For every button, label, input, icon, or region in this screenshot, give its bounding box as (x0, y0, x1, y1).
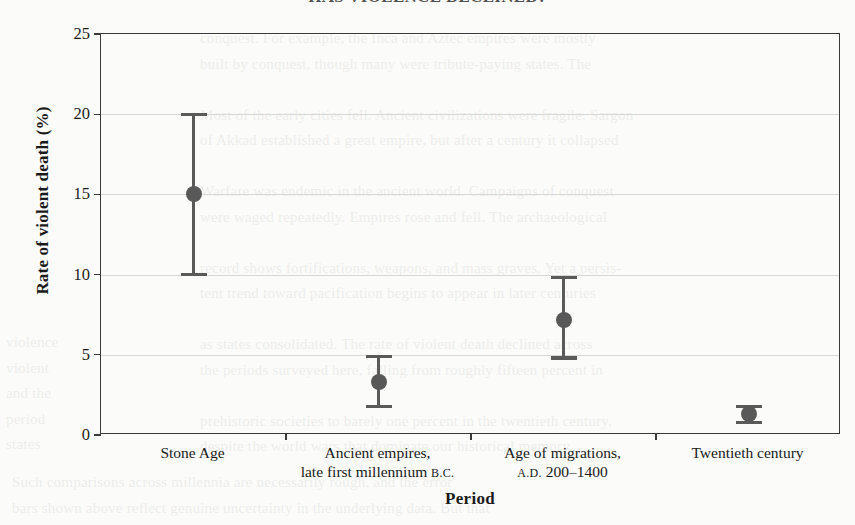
x-category-label-line: late first millennium B.C. (301, 462, 455, 483)
error-bar-cap-lower (181, 273, 207, 276)
era-marker: B.C. (431, 466, 454, 480)
y-tick-label: 25 (74, 24, 91, 44)
error-bar-cap-lower (366, 405, 392, 408)
y-tick-label: 15 (74, 184, 91, 204)
y-tick-mark (94, 33, 101, 34)
y-tick-mark (94, 194, 101, 195)
x-tick-mark (655, 433, 656, 440)
x-axis-title: Period (100, 489, 840, 509)
error-bar-cap-upper (366, 355, 392, 358)
x-category-label-line: Ancient empires, (301, 443, 455, 462)
data-point-marker (556, 312, 572, 328)
gridline (101, 275, 839, 276)
plot-area: 0510152025 (100, 33, 840, 434)
y-tick-label: 0 (82, 425, 90, 445)
x-category-label: Stone Age (160, 443, 224, 462)
era-marker: A.D. (517, 466, 542, 480)
x-category-label-line: Age of migrations, (504, 443, 621, 462)
x-category-label-line: Stone Age (160, 443, 224, 462)
y-tick-label: 10 (74, 265, 91, 285)
y-tick-mark (94, 114, 101, 115)
data-point-marker (186, 186, 202, 202)
x-tick-mark (285, 433, 286, 440)
data-point-marker (371, 374, 387, 390)
x-category-label: Age of migrations,A.D. 200–1400 (504, 443, 621, 483)
y-axis-title: Rate of violent death (%) (23, 0, 63, 401)
gridline (101, 355, 839, 356)
gridline (101, 114, 839, 115)
data-point-marker (741, 406, 757, 422)
x-category-label: Ancient empires,late first millennium B.… (301, 443, 455, 483)
y-tick-label: 20 (74, 104, 91, 124)
error-bar-cap-lower (551, 356, 577, 359)
y-tick-mark (94, 434, 101, 435)
x-category-label-line: Twentieth century (691, 443, 803, 462)
y-tick-mark (94, 354, 101, 355)
figure-page: conquest. For example, the Inca and Azte… (0, 0, 855, 525)
y-tick-mark (94, 274, 101, 275)
chart-title: HAS VIOLENCE DECLINED? (0, 0, 855, 7)
x-tick-mark (470, 433, 471, 440)
gridline (101, 194, 839, 195)
x-category-label-line: A.D. 200–1400 (504, 462, 621, 483)
error-bar-cap-upper (551, 276, 577, 279)
y-tick-label: 5 (82, 345, 90, 365)
x-category-label: Twentieth century (691, 443, 803, 462)
error-bar-cap-upper (181, 113, 207, 116)
